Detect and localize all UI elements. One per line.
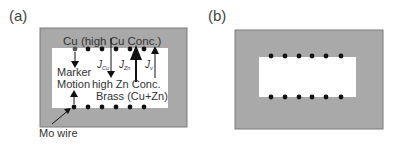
brass-label: Brass (Cu+Zn) xyxy=(96,90,168,102)
panel-b xyxy=(235,30,383,129)
mo-wire-label: Mo wire xyxy=(39,127,78,139)
marker-label: Marker xyxy=(57,66,92,78)
cu-label: Cu (high Cu Conc.) xyxy=(63,35,162,47)
panel-a: Cu (high Cu Conc.) xyxy=(39,28,187,139)
high-zn-label: high Zn Conc. xyxy=(92,78,160,90)
motion-label: Motion xyxy=(57,78,90,90)
inner-region-b xyxy=(259,57,356,97)
diagram-canvas: Cu (high Cu Conc.) xyxy=(0,0,402,145)
